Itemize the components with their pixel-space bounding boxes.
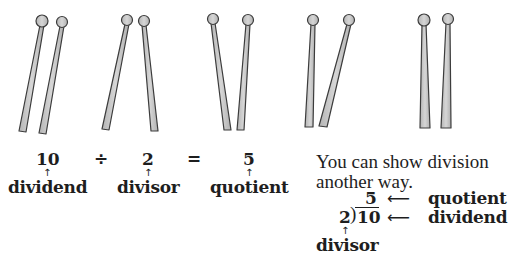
dividend-left-arrow: ⟵ xyxy=(387,210,410,226)
stick-group-4 xyxy=(305,15,355,128)
stick-head xyxy=(36,15,48,27)
stick xyxy=(305,24,315,127)
quotient-left-arrow: ⟵ xyxy=(387,191,410,207)
long-division-quotient: 5 xyxy=(365,190,377,207)
stick-head xyxy=(344,15,355,26)
stick-head xyxy=(122,15,133,26)
stick-group-2 xyxy=(102,15,158,132)
stick xyxy=(420,24,430,128)
quotient-value: 5 xyxy=(243,151,255,168)
stick-group-5 xyxy=(418,14,454,129)
stick-head xyxy=(208,14,219,25)
stick-group-1 xyxy=(19,15,68,134)
long-division-divisor-label: divisor xyxy=(316,236,378,254)
stick xyxy=(441,23,451,128)
stick xyxy=(19,25,44,132)
dividend-label: dividend xyxy=(8,178,87,196)
long-division-quotient-label: quotient xyxy=(428,189,507,207)
quotient-label: quotient xyxy=(210,178,289,196)
stick xyxy=(102,24,129,130)
long-division-dividend: 10 xyxy=(357,209,381,226)
stick-head xyxy=(243,15,254,26)
stick-group-3 xyxy=(208,14,254,131)
divisor-value: 2 xyxy=(142,151,154,168)
stick-head xyxy=(57,17,68,28)
stick xyxy=(319,24,351,127)
stick xyxy=(237,24,250,130)
stick-head xyxy=(308,15,319,26)
divide-sign: ÷ xyxy=(94,151,108,168)
equals-sign: = xyxy=(187,151,201,168)
stick xyxy=(142,25,158,131)
sticks-illustration xyxy=(0,0,513,140)
long-division-dividend-label: dividend xyxy=(428,208,507,226)
stick-head xyxy=(418,14,430,26)
divisor-label: divisor xyxy=(117,178,179,196)
stick xyxy=(211,23,231,130)
stick xyxy=(39,26,64,134)
stick-head xyxy=(139,16,150,27)
stick-head xyxy=(443,14,454,25)
explanation-line-1: You can show division xyxy=(316,152,489,172)
dividend-value: 10 xyxy=(36,151,60,168)
